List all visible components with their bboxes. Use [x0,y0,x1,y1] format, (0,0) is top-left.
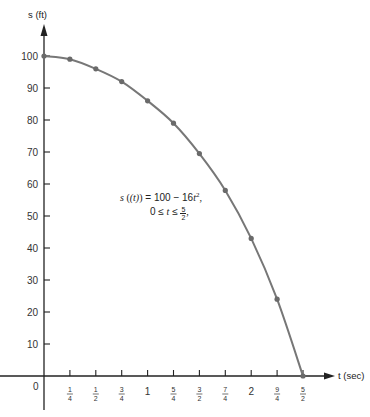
y-tick-label: 60 [27,179,39,190]
eq-domain-comma: , [186,206,189,217]
data-point [41,53,46,58]
data-point [197,151,202,156]
svg-text:2: 2 [94,395,98,402]
eq-t-arg: ((t)) [126,192,142,203]
data-point [300,373,305,378]
svg-text:2: 2 [301,395,305,402]
origin-label: 0 [33,381,39,392]
svg-text:4: 4 [275,395,279,402]
equation-line-1: s ((t)) = 100 − 16t2, [120,188,202,205]
y-tick-label: 80 [27,115,39,126]
data-point [67,57,72,62]
y-axis-label: s (ft) [28,9,47,20]
x-tick-label-fraction: 54 [171,386,177,402]
svg-text:1: 1 [68,386,72,393]
eq-domain-mid: ≤ [169,206,180,217]
eq-comma: , [199,192,202,203]
x-tick-label-fraction: 12 [93,386,99,402]
svg-text:3: 3 [197,386,201,393]
y-tick-label: 30 [27,275,39,286]
equation-annotation: s ((t)) = 100 − 16t2, 0 ≤ t ≤ 52, [120,188,202,221]
data-point [119,79,124,84]
x-tick-label: 2 [248,386,254,397]
data-point [275,297,280,302]
x-tick-label-fraction: 94 [274,386,280,402]
svg-text:5: 5 [172,386,176,393]
svg-text:4: 4 [68,395,72,402]
data-point [171,121,176,126]
x-axis-arrow-icon [324,373,335,380]
eq-rest: = 100 − 16 [143,192,194,203]
x-tick-label-fraction: 52 [300,386,306,402]
y-tick-label: 50 [27,211,39,222]
x-tick-label-fraction: 32 [196,386,202,402]
x-tick-label-fraction: 34 [119,386,125,402]
x-tick-label-fraction: 74 [222,386,228,402]
x-axis-ticks: 141234154327429452 [67,370,306,402]
eq-t: (t) [130,192,139,203]
svg-text:7: 7 [223,386,227,393]
svg-text:4: 4 [223,395,227,402]
eq-domain-pre: 0 ≤ [150,206,167,217]
x-tick-label-fraction: 14 [67,386,73,402]
x-tick-label: 1 [145,386,151,397]
y-tick-label: 40 [27,243,39,254]
data-point [145,98,150,103]
y-tick-label: 20 [27,307,39,318]
svg-text:2: 2 [197,395,201,402]
data-point [223,188,228,193]
svg-text:5: 5 [301,386,305,393]
svg-text:9: 9 [275,386,279,393]
y-axis-arrow-icon [41,24,48,36]
data-point [249,236,254,241]
y-tick-label: 100 [21,51,38,62]
y-tick-label: 90 [27,83,39,94]
svg-text:1: 1 [94,386,98,393]
y-tick-label: 10 [27,339,39,350]
x-axis-label: t (sec) [338,370,364,381]
eq-s: s [120,192,124,203]
svg-text:4: 4 [120,395,124,402]
svg-text:3: 3 [120,386,124,393]
data-point [93,66,98,71]
equation-line-2: 0 ≤ t ≤ 52, [120,205,202,220]
y-tick-label: 70 [27,147,39,158]
svg-text:4: 4 [172,395,176,402]
y-axis-ticks: 102030405060708090100 [21,51,50,350]
